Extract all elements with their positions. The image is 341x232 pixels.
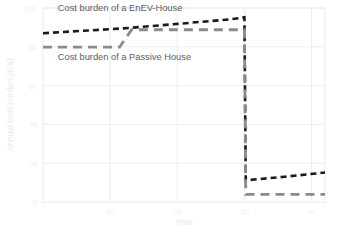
y-tick-label: 0	[33, 198, 38, 207]
y-tick-label: 4k	[29, 120, 38, 129]
y-tick-label: 8k	[29, 43, 38, 52]
x-tick-label: 10	[106, 208, 115, 217]
series-annotation-label: Cost burden of a Passive House	[58, 52, 191, 62]
y-axis-title: Annual cost burden (€/a)	[5, 58, 15, 151]
x-tick-label: 40	[307, 208, 316, 217]
y-tick-label: 2k	[29, 159, 38, 168]
x-tick-label: 30	[240, 208, 249, 217]
x-tick-labels: 10203040	[106, 208, 317, 217]
series-annotation-label: Cost burden of a EnEV-House	[58, 3, 183, 13]
y-tick-label: 10k	[24, 4, 38, 13]
plot-background	[43, 8, 325, 202]
chart-figure: 02k4k6k8k10k 10203040 Annual cost burden…	[0, 0, 341, 232]
line-chart-canvas: 02k4k6k8k10k 10203040 Annual cost burden…	[0, 0, 341, 232]
y-tick-label: 6k	[29, 82, 38, 91]
x-tick-label: 20	[173, 208, 182, 217]
x-axis-title: Year	[175, 217, 192, 227]
y-tick-labels: 02k4k6k8k10k	[24, 4, 38, 207]
